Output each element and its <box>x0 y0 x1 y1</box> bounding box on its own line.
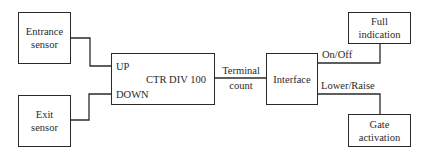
gate-activation-block: Gate activation <box>348 114 411 147</box>
exit-sensor-block: Exit sensor <box>18 95 71 147</box>
terminal-count-line-2: count <box>218 80 264 92</box>
counter-input-down: DOWN <box>116 89 149 101</box>
full-indication-label-1: Full <box>359 15 401 28</box>
full-indication-label-2: indication <box>359 28 401 41</box>
entrance-sensor-label-1: Entrance <box>26 25 63 38</box>
counter-input-up: UP <box>116 61 129 73</box>
lower-raise-label: Lower/Raise <box>321 80 375 92</box>
counter-block: UP CTR DIV 100 DOWN <box>111 53 215 105</box>
gate-activation-label-1: Gate <box>359 118 400 131</box>
entrance-sensor-label-2: sensor <box>26 38 63 51</box>
terminal-count-label: Terminal count <box>218 65 264 92</box>
line-entrance-to-up <box>70 38 111 66</box>
full-indication-block: Full indication <box>348 12 411 44</box>
interface-block: Interface <box>266 53 318 105</box>
gate-activation-label-2: activation <box>359 131 400 144</box>
interface-title: Interface <box>273 73 310 86</box>
counter-title: CTR DIV 100 <box>146 74 206 86</box>
exit-sensor-label-2: sensor <box>31 121 58 134</box>
line-exit-to-down <box>70 94 111 120</box>
entrance-sensor-block: Entrance sensor <box>18 12 71 64</box>
line-lower-raise <box>317 94 380 114</box>
terminal-count-line-1: Terminal <box>218 65 264 77</box>
exit-sensor-label-1: Exit <box>31 108 58 121</box>
on-off-label: On/Off <box>322 49 352 61</box>
